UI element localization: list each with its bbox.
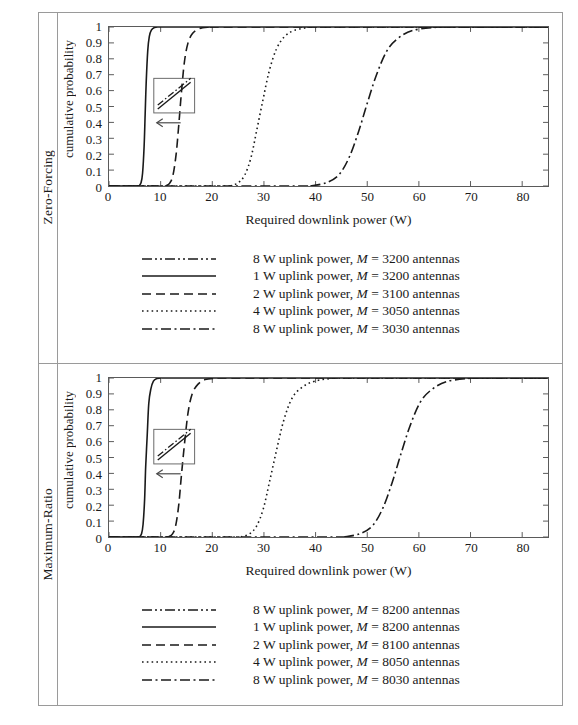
y-tick-label: 1 [96,371,103,384]
y-axis-ticks-mr: 10.90.80.70.60.50.40.30.20.10 [75,363,105,538]
y-tick-label: 0.9 [86,36,102,49]
x-tick-label: 0 [105,190,112,203]
y-tick-label: 0.5 [86,100,102,113]
legend-row: 1 W uplink power, M = 8200 antennas [57,619,563,637]
legend-line-sample-dashdotdot [141,252,217,266]
x-tick-label: 50 [361,190,374,203]
x-tick-label: 70 [465,541,478,554]
legend-line-sample-dashdot [141,322,217,336]
legend-row: 4 W uplink power, M = 8050 antennas [57,654,563,672]
legend-zero-forcing: 8 W uplink power, M = 3200 antennas1 W u… [57,250,563,338]
legend-label: 1 W uplink power, M = 8200 antennas [253,619,460,635]
row-label-zero-forcing-text: Zero-Forcing [40,150,56,224]
x-tick-label: 80 [517,541,530,554]
y-axis-ticks-zf: 10.90.80.70.60.50.40.30.20.10 [75,12,105,187]
x-tick-label: 80 [517,190,530,203]
x-tick-label: 50 [361,541,374,554]
x-tick-label: 70 [465,190,478,203]
y-tick-label: 0.8 [86,403,102,416]
x-tick-label: 0 [105,541,112,554]
x-axis-ticks-mr: 01020304050607080 [108,541,549,559]
x-tick-label: 60 [413,541,426,554]
row-label-zero-forcing: Zero-Forcing [38,12,57,363]
legend-line-sample-dashdotdot [141,603,217,617]
legend-label: 8 W uplink power, M = 3200 antennas [253,251,460,267]
x-tick-label: 40 [309,190,322,203]
legend-label: 8 W uplink power, M = 8030 antennas [253,672,460,688]
x-tick-label: 10 [153,190,166,203]
legend-label: 2 W uplink power, M = 3100 antennas [253,286,460,302]
panel-maximum-ratio: cumulative probability 10.90.80.70.60.50… [57,363,563,706]
row-label-maximum-ratio-text: Maximum-Ratio [40,488,56,581]
y-tick-label: 0.2 [86,499,102,512]
x-axis-ticks-zf: 01020304050607080 [108,190,549,208]
legend-line-sample-solid [141,620,217,634]
x-tick-label: 20 [205,541,218,554]
y-tick-label: 0.7 [86,68,102,81]
legend-maximum-ratio: 8 W uplink power, M = 8200 antennas1 W u… [57,601,563,689]
y-tick-label: 1 [96,20,103,33]
legend-label: 2 W uplink power, M = 8100 antennas [253,637,460,653]
y-tick-label: 0.5 [86,451,102,464]
y-tick-label: 0.6 [86,435,102,448]
legend-row: 8 W uplink power, M = 8030 antennas [57,671,563,689]
y-tick-label: 0.4 [86,467,102,480]
row-label-maximum-ratio: Maximum-Ratio [38,363,57,706]
x-axis-label-mr: Required downlink power (W) [108,563,549,579]
legend-row: 4 W uplink power, M = 3050 antennas [57,303,563,321]
legend-label: 4 W uplink power, M = 8050 antennas [253,654,460,670]
y-tick-label: 0 [96,181,103,194]
y-tick-label: 0.8 [86,52,102,65]
legend-row: 2 W uplink power, M = 3100 antennas [57,285,563,303]
plot-zero-forcing: cumulative probability 10.90.80.70.60.50… [57,12,563,244]
x-tick-label: 10 [153,541,166,554]
legend-row: 8 W uplink power, M = 3200 antennas [57,250,563,268]
y-tick-label: 0.1 [86,164,102,177]
y-tick-label: 0.3 [86,132,102,145]
legend-row: 8 W uplink power, M = 3030 antennas [57,320,563,338]
legend-row: 8 W uplink power, M = 8200 antennas [57,601,563,619]
x-tick-label: 40 [309,541,322,554]
legend-line-sample-dashdot [141,673,217,687]
legend-row: 2 W uplink power, M = 8100 antennas [57,636,563,654]
inset-annotation-zf [109,27,548,186]
x-tick-label: 60 [413,190,426,203]
inset-annotation-mr [109,378,548,537]
legend-row: 1 W uplink power, M = 3200 antennas [57,268,563,286]
panel-zero-forcing: cumulative probability 10.90.80.70.60.50… [57,12,563,363]
legend-line-sample-solid [141,269,217,283]
axes-maximum-ratio [108,377,549,538]
x-axis-label-zf: Required downlink power (W) [108,212,549,228]
y-tick-label: 0.1 [86,515,102,528]
y-tick-label: 0.2 [86,148,102,161]
x-tick-label: 30 [257,541,270,554]
legend-label: 8 W uplink power, M = 8200 antennas [253,602,460,618]
y-tick-label: 0.7 [86,419,102,432]
x-tick-label: 30 [257,190,270,203]
y-tick-label: 0.3 [86,483,102,496]
y-tick-label: 0.4 [86,116,102,129]
axes-zero-forcing [108,26,549,187]
legend-line-sample-dashed [141,287,217,301]
legend-line-sample-dashed [141,638,217,652]
plot-maximum-ratio: cumulative probability 10.90.80.70.60.50… [57,363,563,595]
x-tick-label: 20 [205,190,218,203]
y-tick-label: 0.9 [86,387,102,400]
y-tick-label: 0.6 [86,84,102,97]
legend-line-sample-dotted [141,655,217,669]
legend-label: 4 W uplink power, M = 3050 antennas [253,303,460,319]
legend-label: 1 W uplink power, M = 3200 antennas [253,268,460,284]
legend-line-sample-dotted [141,304,217,318]
legend-label: 8 W uplink power, M = 3030 antennas [253,321,460,337]
y-tick-label: 0 [96,532,103,545]
